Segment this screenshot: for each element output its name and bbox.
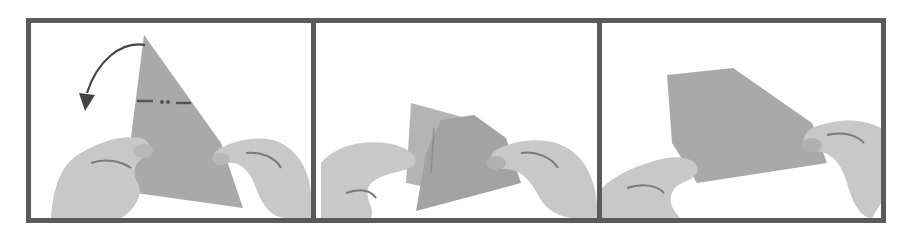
curved-arrow-icon [79,44,145,111]
step-2-illustration [316,23,597,218]
step-1-illustration [31,23,311,218]
step-3-illustration [602,23,881,218]
step-3-panel [602,23,881,218]
instruction-strip [26,18,886,223]
left-hand [602,157,698,218]
left-hand [321,142,416,218]
paper-triangle [129,35,243,208]
right-hand [802,121,881,219]
step-1-panel [31,23,311,218]
step-2-panel [316,23,597,218]
